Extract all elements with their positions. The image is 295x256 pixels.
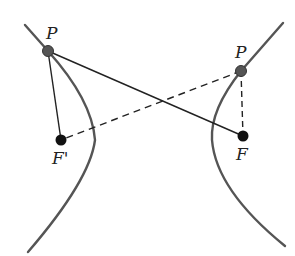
point-p-left: [43, 46, 54, 57]
focus-f: [238, 131, 249, 142]
diagram-canvas: P P F' F: [0, 0, 295, 256]
focus-f-prime: [56, 135, 67, 146]
hyperbola-diagram: P P F' F: [0, 0, 295, 256]
segment-p-left-to-f: [48, 51, 243, 136]
point-p-right: [236, 66, 247, 77]
label-p-right: P: [234, 42, 247, 62]
segment-p-right-to-f: [241, 71, 243, 136]
hyperbola-right-branch: [212, 23, 285, 246]
segment-p-right-to-f-prime: [61, 71, 241, 140]
label-f: F: [235, 144, 249, 164]
label-p-left: P: [45, 23, 58, 43]
label-f-prime: F': [51, 148, 68, 168]
